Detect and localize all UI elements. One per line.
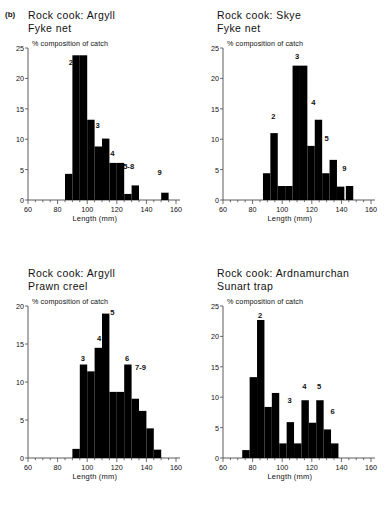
x-tick-label: 120	[107, 205, 127, 214]
age-class-label: 9	[150, 168, 170, 177]
histogram-bar	[307, 146, 314, 200]
y-tick-label: 0	[201, 196, 219, 205]
age-class-label: 9	[334, 164, 354, 173]
x-tick-label: 140	[331, 463, 351, 472]
histogram-bar	[65, 174, 72, 200]
age-class-label: 4	[303, 98, 323, 107]
age-class-label: 3	[280, 396, 300, 405]
histogram-bar	[250, 377, 257, 458]
y-tick-label: 25	[201, 302, 219, 311]
y-tick-label: 25	[6, 44, 24, 53]
histogram-bar	[331, 443, 338, 458]
chart-panel-skye-fyke-net: Rock cook: Skye Fyke net % composition o…	[195, 0, 387, 256]
y-tick-label: 15	[6, 105, 24, 114]
x-tick-label: 100	[77, 463, 97, 472]
histogram-bar	[154, 450, 161, 458]
histogram-bar	[293, 66, 300, 200]
y-tick-label: 20	[6, 302, 24, 311]
age-class-label: 5	[102, 308, 122, 317]
histogram-bar	[287, 422, 294, 458]
y-axis-title: % composition of catch	[32, 297, 108, 306]
histogram-bar	[124, 194, 131, 200]
age-class-label: 3	[287, 52, 307, 61]
x-tick-label: 100	[77, 205, 97, 214]
histogram-bar	[132, 185, 139, 200]
chart-title: Rock cook: Argyll Prawn creel	[28, 267, 115, 293]
y-tick-label: 15	[201, 105, 219, 114]
plot-area	[28, 306, 176, 458]
histogram-bar	[109, 163, 116, 200]
y-tick-label: 0	[6, 196, 24, 205]
histogram-bar	[272, 393, 279, 458]
histogram-bar	[279, 443, 286, 458]
y-tick-label: 20	[201, 332, 219, 341]
histogram-bar	[80, 55, 87, 200]
histogram-bar	[263, 173, 270, 200]
histogram-bar	[324, 429, 331, 458]
age-class-label: 2	[61, 58, 81, 67]
y-tick-label: 25	[201, 44, 219, 53]
y-tick-label: 0	[201, 454, 219, 463]
x-tick-label: 160	[361, 205, 381, 214]
x-tick-label: 160	[166, 205, 186, 214]
x-tick-label: 80	[243, 205, 263, 214]
histogram-bar	[80, 365, 87, 458]
y-tick-label: 5	[6, 166, 24, 175]
y-axis-title: % composition of catch	[32, 39, 108, 48]
histogram-bar	[95, 348, 102, 458]
y-tick-label: 15	[6, 340, 24, 349]
age-class-label: 5-8	[119, 162, 139, 171]
axes-and-bars	[223, 48, 385, 210]
x-tick-label: 120	[302, 463, 322, 472]
x-tick-label: 100	[272, 463, 292, 472]
y-tick-label: 5	[201, 424, 219, 433]
x-axis-title: Length (mm)	[267, 472, 312, 481]
x-tick-label: 80	[48, 205, 68, 214]
histogram-bar	[285, 186, 292, 200]
chart-panel-ardnamurchan-sunart-trap: Rock cook: Ardnamurchan Sunart trap % co…	[195, 258, 387, 512]
y-tick-label: 0	[6, 454, 24, 463]
histogram-bar	[270, 133, 277, 200]
age-class-label: 3	[88, 121, 108, 130]
x-tick-label: 120	[302, 205, 322, 214]
histogram-bar	[87, 120, 94, 200]
x-tick-label: 80	[243, 463, 263, 472]
histogram-bar	[124, 365, 131, 458]
x-tick-label: 120	[107, 463, 127, 472]
figure-panel-b: (b) Rock cook: Argyll Fyke net % composi…	[0, 0, 387, 512]
chart-title: Rock cook: Ardnamurchan Sunart trap	[217, 267, 349, 293]
x-tick-label: 140	[331, 205, 351, 214]
histogram-bar	[72, 449, 79, 458]
y-tick-label: 10	[201, 393, 219, 402]
histogram-bar	[139, 411, 146, 458]
y-tick-label: 20	[6, 74, 24, 83]
chart-title: Rock cook: Argyll Fyke net	[28, 9, 115, 35]
histogram-bar	[301, 400, 308, 458]
histogram-bar	[264, 407, 271, 458]
histogram-bar	[294, 443, 301, 458]
x-tick-label: 100	[272, 205, 292, 214]
y-tick-label: 5	[6, 416, 24, 425]
y-tick-label: 10	[6, 135, 24, 144]
x-tick-label: 140	[136, 205, 156, 214]
histogram-bar	[109, 392, 116, 458]
histogram-bar	[322, 173, 329, 200]
age-class-label: 5	[309, 382, 329, 391]
plot-area	[223, 48, 371, 200]
x-tick-label: 60	[18, 205, 38, 214]
axes-and-bars	[28, 306, 190, 468]
x-tick-label: 140	[136, 463, 156, 472]
x-axis-title: Length (mm)	[72, 214, 117, 223]
y-tick-label: 5	[201, 166, 219, 175]
histogram-bar	[346, 186, 353, 200]
x-tick-label: 160	[166, 463, 186, 472]
y-tick-label: 15	[201, 363, 219, 372]
histogram-bar	[337, 187, 344, 200]
histogram-bar	[257, 320, 264, 458]
histogram-bar	[72, 55, 79, 200]
histogram-bar	[95, 146, 102, 200]
chart-panel-argyll-fyke-net: Rock cook: Argyll Fyke net % composition…	[0, 0, 193, 256]
histogram-bar	[117, 392, 124, 458]
y-tick-label: 10	[6, 378, 24, 387]
histogram-bar	[242, 450, 249, 458]
